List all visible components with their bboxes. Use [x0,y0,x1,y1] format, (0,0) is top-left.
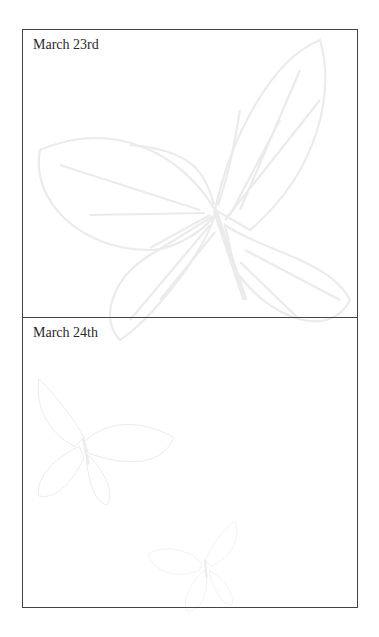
entry-date: March 23rd [33,37,99,53]
journal-page: March 23rd March 24th [22,29,358,608]
journal-entry[interactable]: March 24th [23,317,357,607]
entry-date: March 24th [33,325,98,341]
journal-entry[interactable]: March 23rd [23,30,357,317]
